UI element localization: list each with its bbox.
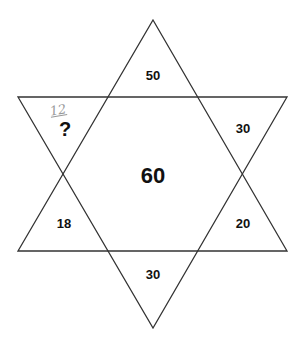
center-value: 60 xyxy=(141,163,165,189)
upper-right-point-value: 30 xyxy=(236,121,250,136)
upper-left-unknown-value: ? xyxy=(59,118,71,141)
lower-right-point-value: 20 xyxy=(236,216,250,231)
bottom-point-value: 30 xyxy=(146,267,160,282)
handwritten-answer: 12 xyxy=(49,101,68,119)
lower-left-point-value: 18 xyxy=(57,216,71,231)
top-point-value: 50 xyxy=(146,68,160,83)
